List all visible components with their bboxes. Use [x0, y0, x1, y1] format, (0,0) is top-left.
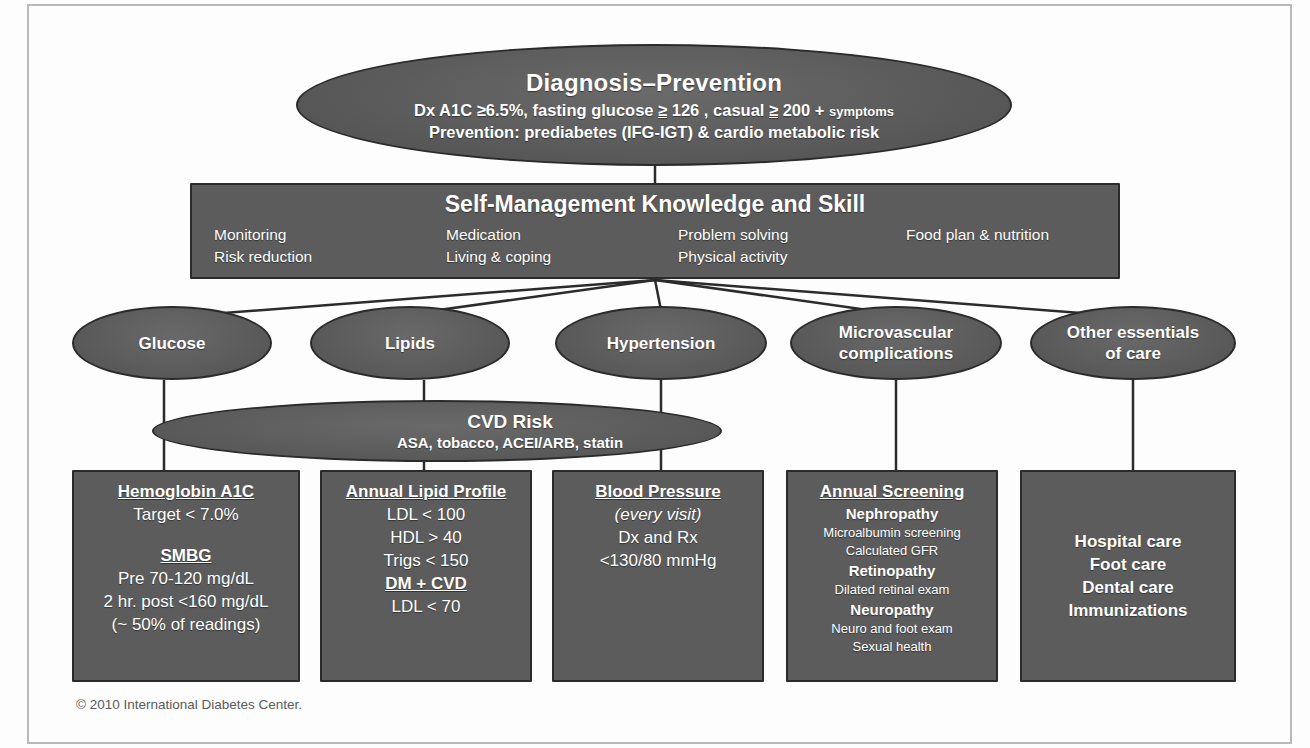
lipid-ldl-dmcvd: LDL < 70: [392, 595, 461, 618]
dx-criteria-part2: 126 , casual: [667, 101, 769, 119]
smbg-heading: SMBG: [161, 544, 212, 567]
dx-gte-2: ≥: [769, 101, 778, 119]
a1c-heading: Hemoglobin A1C: [118, 480, 254, 503]
screening-neuropathy-detail-2: Sexual health: [853, 638, 932, 656]
node-annual-lipid-profile-box: Annual Lipid Profile LDL < 100 HDL > 40 …: [320, 470, 532, 682]
glucose-label: Glucose: [138, 333, 205, 354]
frame-border-bottom: [27, 742, 1292, 744]
node-glucose: Glucose: [72, 306, 272, 380]
lipid-dm-cvd-heading: DM + CVD: [385, 572, 467, 595]
screening-nephropathy-detail-2: Calculated GFR: [846, 542, 938, 560]
cvd-risk-content: CVD Risk ASA, tobacco, ACEI/ARB, statin: [251, 411, 623, 451]
diagnosis-prevention-title: Diagnosis–Prevention: [526, 69, 782, 97]
lipid-ldl: LDL < 100: [387, 503, 465, 526]
node-microvascular-complications: Microvascular complications: [790, 306, 1002, 380]
hypertension-label: Hypertension: [607, 333, 716, 354]
frame-border-left: [27, 4, 29, 744]
lipid-trigs: Trigs < 150: [384, 549, 469, 572]
node-cvd-risk: CVD Risk ASA, tobacco, ACEI/ARB, statin: [152, 400, 722, 462]
other-foot-care: Foot care: [1090, 553, 1167, 576]
node-self-management: Self-Management Knowledge and Skill Moni…: [190, 183, 1120, 279]
other-essentials-label-line2: of care: [1105, 343, 1161, 364]
screening-nephropathy: Nephropathy: [846, 503, 939, 524]
node-other-essentials-box: Hospital care Foot care Dental care Immu…: [1020, 470, 1236, 682]
dx-gte-1: ≥: [658, 101, 667, 119]
cvd-risk-title: CVD Risk: [397, 411, 623, 433]
node-lipids: Lipids: [310, 306, 510, 380]
smbg-pre: Pre 70-120 mg/dL: [118, 567, 254, 590]
frame-border-top: [27, 4, 1292, 6]
sm-item-risk-reduction: Risk reduction: [214, 246, 446, 268]
copyright-notice: © 2010 International Diabetes Center.: [76, 697, 302, 712]
self-management-column-3: Problem solving Physical activity: [678, 224, 906, 268]
prevention-label: Prevention:: [429, 123, 520, 141]
screening-retinopathy: Retinopathy: [849, 560, 936, 581]
sm-item-food-plan: Food plan & nutrition: [906, 224, 1096, 246]
node-diagnosis-prevention: Diagnosis–Prevention Dx A1C ≥6.5%, fasti…: [296, 44, 1012, 166]
cvd-risk-subtitle: ASA, tobacco, ACEI/ARB, statin: [397, 434, 623, 451]
other-dental-care: Dental care: [1082, 576, 1174, 599]
self-management-column-4: Food plan & nutrition: [906, 224, 1096, 268]
screening-neuropathy-detail-1: Neuro and foot exam: [831, 620, 952, 638]
node-other-essentials: Other essentials of care: [1030, 306, 1236, 380]
other-essentials-label-line1: Other essentials: [1067, 322, 1199, 343]
microvascular-label-line1: Microvascular: [839, 322, 953, 343]
diagnosis-criteria-line: Dx A1C ≥6.5%, fasting glucose ≥ 126 , ca…: [414, 101, 894, 120]
screening-neuropathy: Neuropathy: [850, 599, 933, 620]
prevention-detail: prediabetes (IFG-IGT) & cardio metabolic…: [520, 123, 879, 141]
a1c-target: Target < 7.0%: [133, 503, 238, 526]
sm-item-problem-solving: Problem solving: [678, 224, 906, 246]
sm-item-living-coping: Living & coping: [446, 246, 678, 268]
self-management-column-1: Monitoring Risk reduction: [214, 224, 446, 268]
node-annual-screening-box: Annual Screening Nephropathy Microalbumi…: [786, 470, 998, 682]
node-hypertension: Hypertension: [555, 306, 767, 380]
bp-target: <130/80 mmHg: [600, 549, 717, 572]
lipid-hdl: HDL > 40: [390, 526, 462, 549]
node-hemoglobin-a1c-box: Hemoglobin A1C Target < 7.0% SMBG Pre 70…: [72, 470, 300, 682]
microvascular-label-line2: complications: [839, 343, 953, 364]
node-blood-pressure-box: Blood Pressure (every visit) Dx and Rx <…: [552, 470, 764, 682]
frame-border-right: [1290, 4, 1292, 744]
lipids-label: Lipids: [385, 333, 435, 354]
other-immunizations: Immunizations: [1068, 599, 1187, 622]
lipid-heading: Annual Lipid Profile: [346, 480, 507, 503]
sm-item-physical-activity: Physical activity: [678, 246, 906, 268]
dx-criteria-part1: Dx A1C ≥6.5%, fasting glucose: [414, 101, 658, 119]
screening-retinopathy-detail-1: Dilated retinal exam: [835, 581, 950, 599]
bp-frequency: (every visit): [615, 503, 702, 526]
self-management-header: Self-Management Knowledge and Skill: [445, 191, 865, 218]
screening-nephropathy-detail-1: Microalbumin screening: [823, 524, 960, 542]
prevention-line: Prevention: prediabetes (IFG-IGT) & card…: [429, 123, 879, 142]
screening-heading: Annual Screening: [820, 480, 965, 503]
sm-item-medication: Medication: [446, 224, 678, 246]
bp-heading: Blood Pressure: [595, 480, 721, 503]
other-hospital-care: Hospital care: [1075, 530, 1182, 553]
self-management-columns: Monitoring Risk reduction Medication Liv…: [192, 224, 1118, 268]
smbg-note: (~ 50% of readings): [112, 613, 261, 636]
self-management-column-2: Medication Living & coping: [446, 224, 678, 268]
bp-dx-rx: Dx and Rx: [618, 526, 697, 549]
dx-criteria-part3: 200 +: [778, 101, 829, 119]
smbg-post: 2 hr. post <160 mg/dL: [104, 590, 269, 613]
sm-item-monitoring: Monitoring: [214, 224, 446, 246]
diagram-canvas: Diagnosis–Prevention Dx A1C ≥6.5%, fasti…: [0, 0, 1310, 748]
dx-symptoms-label: symptoms: [829, 104, 894, 119]
